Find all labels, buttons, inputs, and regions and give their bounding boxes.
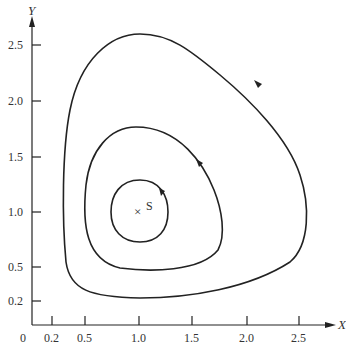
x-tick-label: 2.0: [239, 332, 254, 344]
x-tick-label: 2.5: [291, 332, 306, 344]
y-tick-label: 1.5: [8, 151, 23, 163]
y-tick-label: 0.2: [8, 295, 23, 307]
equilibrium-label: S: [146, 200, 153, 212]
arrow-outer-icon: [254, 80, 262, 88]
orbit-middle: [85, 127, 223, 270]
y-tick-label: 1.0: [8, 206, 23, 218]
x-tick-label: 0.2: [44, 332, 59, 344]
x-axis-label: X: [338, 318, 346, 331]
phase-portrait: [0, 0, 346, 353]
equilibrium-marker-icon: ×: [134, 205, 141, 218]
y-tick-label: 0.5: [8, 261, 23, 273]
x-axis-arrow-icon: [325, 322, 336, 328]
y-axis-label: Y: [28, 4, 35, 17]
y-tick-label: 2.5: [8, 39, 23, 51]
x-tick-label: 1.5: [184, 332, 199, 344]
x-tick-label: 1.0: [131, 332, 146, 344]
y-tick-label: 2.0: [8, 95, 23, 107]
origin-label: 0: [20, 332, 26, 344]
x-tick-label: 0.5: [77, 332, 92, 344]
